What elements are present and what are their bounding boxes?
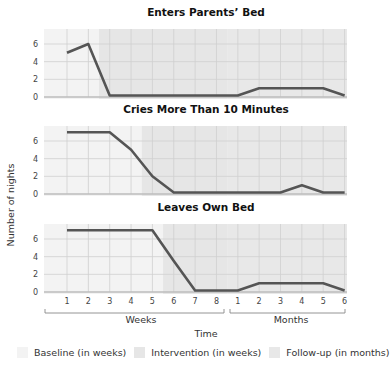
months-bracket <box>230 309 345 313</box>
baseline-region <box>44 224 163 294</box>
y-tick-label: 4 <box>33 253 38 262</box>
chart-panel: 0246Enters Parents’ Bed <box>33 6 347 102</box>
x-tick-label: 6 <box>342 297 347 306</box>
x-tick-label: 2 <box>86 297 91 306</box>
y-tick-label: 0 <box>33 190 38 199</box>
x-tick-label: 5 <box>321 297 326 306</box>
y-tick-label: 2 <box>33 172 38 181</box>
followup-swatch <box>269 347 280 358</box>
x-tick-label: 1 <box>235 297 240 306</box>
x-tick-label: 1 <box>64 297 69 306</box>
x-tick-label: 5 <box>150 297 155 306</box>
x-tick-label: 6 <box>171 297 176 306</box>
x-tick-label: 4 <box>299 297 304 306</box>
months-label: Months <box>274 314 309 325</box>
y-tick-label: 2 <box>33 270 38 279</box>
legend: Baseline (in weeks) Intervention (in wee… <box>0 343 363 361</box>
legend-item-intervention: Intervention (in weeks) <box>134 347 261 358</box>
intervention-region <box>99 29 227 99</box>
x-axis-label: Time <box>193 328 217 339</box>
x-tick-label: 7 <box>193 297 198 306</box>
chart-panels: 0246Enters Parents’ Bed0246Cries More Th… <box>33 6 347 297</box>
weeks-label: Weeks <box>126 314 157 325</box>
multi-panel-line-chart: 0246Enters Parents’ Bed0246Cries More Th… <box>0 0 363 340</box>
legend-label: Baseline (in weeks) <box>34 347 126 358</box>
weeks-bracket <box>45 309 224 313</box>
y-tick-label: 0 <box>33 288 38 297</box>
baseline-swatch <box>17 347 28 358</box>
x-tick-label: 8 <box>214 297 219 306</box>
legend-label: Follow-up (in months) <box>286 347 389 358</box>
baseline-region <box>44 126 142 196</box>
y-axis-label: Number of nights <box>5 164 16 247</box>
panel-title: Leaves Own Bed <box>157 201 254 213</box>
legend-item-baseline: Baseline (in weeks) <box>17 347 126 358</box>
y-tick-label: 2 <box>33 75 38 84</box>
y-tick-label: 0 <box>33 93 38 102</box>
y-tick-label: 6 <box>33 235 38 244</box>
chart-panel: 0246Leaves Own Bed <box>33 201 347 297</box>
legend-item-followup: Follow-up (in months) <box>269 347 389 358</box>
intervention-region <box>142 126 227 196</box>
legend-label: Intervention (in weeks) <box>151 347 261 358</box>
y-tick-label: 6 <box>33 137 38 146</box>
y-tick-label: 4 <box>33 155 38 164</box>
intervention-swatch <box>134 347 145 358</box>
x-axis: 12345678123456 <box>45 297 347 313</box>
chart-panel: 0246Cries More Than 10 Minutes <box>33 103 347 199</box>
x-tick-label: 2 <box>257 297 262 306</box>
y-tick-label: 6 <box>33 40 38 49</box>
panel-title: Cries More Than 10 Minutes <box>123 103 289 115</box>
panel-title: Enters Parents’ Bed <box>147 6 265 18</box>
followup-region <box>227 126 347 196</box>
baseline-region <box>44 29 99 99</box>
x-tick-label: 3 <box>278 297 283 306</box>
y-tick-label: 4 <box>33 58 38 67</box>
x-tick-label: 4 <box>129 297 134 306</box>
x-tick-label: 3 <box>107 297 112 306</box>
